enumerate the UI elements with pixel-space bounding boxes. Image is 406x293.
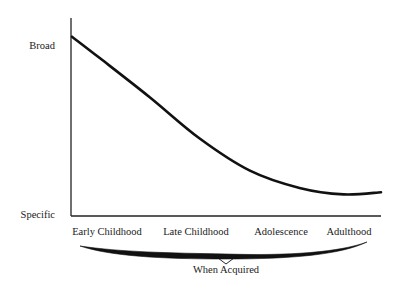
x-tick-label-late-childhood: Late Childhood [163, 226, 229, 237]
x-axis-brace [80, 242, 367, 259]
chart: BroadSpecific Early ChildhoodLate Childh… [0, 0, 406, 293]
y-tick-label-broad: Broad [29, 40, 55, 51]
series-line-breadth [72, 37, 381, 195]
x-tick-label-adulthood: Adulthood [327, 226, 373, 237]
x-tick-label-adolescence: Adolescence [254, 226, 308, 237]
x-tick-label-early-childhood: Early Childhood [72, 226, 142, 237]
y-tick-label-specific: Specific [21, 209, 56, 220]
x-axis-title: When Acquired [193, 264, 260, 275]
